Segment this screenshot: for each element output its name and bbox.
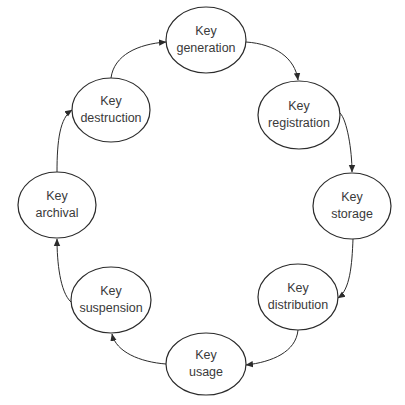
node-key-suspension bbox=[71, 267, 151, 333]
arrow-distribution-to-usage bbox=[246, 330, 298, 365]
key-lifecycle-diagram: Key generation Key registration Key stor… bbox=[0, 0, 405, 405]
node-key-usage bbox=[166, 333, 246, 395]
node-key-storage bbox=[313, 173, 391, 239]
node-key-destruction bbox=[72, 78, 150, 142]
arrow-generation-to-registration bbox=[246, 42, 298, 80]
node-key-generation bbox=[166, 7, 246, 73]
arrow-storage-to-distribution bbox=[338, 239, 353, 298]
arrow-suspension-to-archival bbox=[57, 239, 71, 302]
arrow-archival-to-destruction bbox=[57, 110, 72, 172]
arrow-usage-to-suspension bbox=[112, 334, 166, 364]
arrow-destruction-to-generation bbox=[111, 42, 166, 78]
diagram-svg bbox=[0, 0, 405, 405]
node-key-distribution bbox=[258, 264, 338, 330]
node-key-registration bbox=[258, 81, 340, 149]
node-key-archival bbox=[18, 172, 96, 238]
arrow-registration-to-storage bbox=[340, 113, 352, 172]
